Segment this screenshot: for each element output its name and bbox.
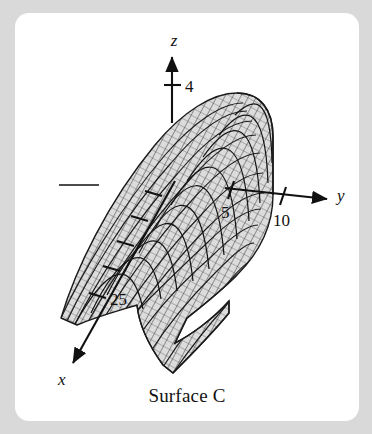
z-axis bbox=[164, 57, 181, 123]
y-tick-label-5: 5 bbox=[221, 203, 230, 222]
figure-page: z 4 y 5 10 bbox=[0, 0, 372, 434]
figure-card: z 4 y 5 10 bbox=[15, 13, 359, 421]
surface-mesh bbox=[61, 93, 273, 373]
z-axis-label: z bbox=[170, 31, 178, 50]
y-tick-10 bbox=[280, 187, 286, 205]
x-tick-label-25: 25 bbox=[110, 290, 127, 309]
y-tick-label-10: 10 bbox=[273, 211, 290, 230]
y-axis-label: y bbox=[335, 186, 345, 205]
surface-plot-figure: z 4 y 5 10 bbox=[15, 13, 359, 421]
figure-caption: Surface C bbox=[15, 385, 359, 407]
z-tick-label-4: 4 bbox=[185, 77, 194, 96]
